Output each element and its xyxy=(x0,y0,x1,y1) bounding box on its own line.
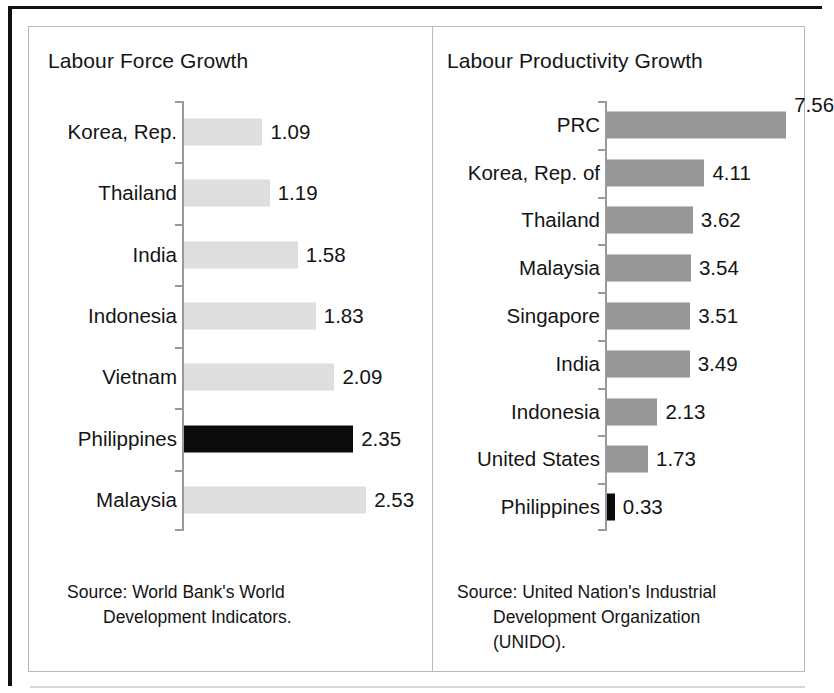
figure-left-rule xyxy=(8,6,12,686)
bar-category-label: Malaysia xyxy=(433,256,600,280)
bar-value-label: 1.83 xyxy=(324,304,364,328)
chart-row: Vietnam2.09 xyxy=(29,347,432,408)
bar xyxy=(607,207,693,234)
chart-row: Korea, Rep.1.09 xyxy=(29,101,432,162)
axis-tick xyxy=(598,292,606,294)
bar-value-label: 7.56 xyxy=(794,93,834,117)
axis-tick xyxy=(175,162,183,164)
chart-row: Indonesia2.13 xyxy=(433,388,804,436)
source-note-left: Source: World Bank's World Development I… xyxy=(67,555,292,655)
axis-tick xyxy=(175,347,183,349)
bar xyxy=(607,302,690,329)
panel-title-right: Labour Productivity Growth xyxy=(447,49,703,73)
chart-row: Singapore3.51 xyxy=(433,292,804,340)
bar-value-label: 3.54 xyxy=(699,256,739,280)
chart-row: Philippines0.33 xyxy=(433,483,804,531)
bar-category-label: India xyxy=(29,243,177,267)
bar xyxy=(607,159,704,186)
bar-category-label: Singapore xyxy=(433,304,600,328)
bar xyxy=(607,255,691,282)
bar xyxy=(607,111,786,138)
panel-labour-force-growth: Labour Force Growth Korea, Rep.1.09Thail… xyxy=(29,27,433,671)
bar-category-label: Indonesia xyxy=(433,400,600,424)
bar-category-label: Philippines xyxy=(433,495,600,519)
bar xyxy=(607,398,657,425)
bar-value-label: 2.13 xyxy=(665,400,705,424)
bar-value-label: 1.73 xyxy=(656,447,696,471)
bar-category-label: Korea, Rep. of xyxy=(433,161,600,185)
chart-row: PRC7.56 xyxy=(433,101,804,149)
bar xyxy=(607,446,648,473)
source-note-left-line1: Source: World Bank's World xyxy=(67,582,285,602)
bar-category-label: Korea, Rep. xyxy=(29,120,177,144)
panel-labour-productivity-growth: Labour Productivity Growth PRC7.56Korea,… xyxy=(433,27,804,671)
figure-top-rule xyxy=(10,6,822,9)
bar xyxy=(184,118,262,145)
bar-category-label: Indonesia xyxy=(29,304,177,328)
chart-row: India1.58 xyxy=(29,224,432,285)
bar-value-label: 3.49 xyxy=(698,352,738,376)
bar-category-label: Philippines xyxy=(29,427,177,451)
bar-value-label: 2.35 xyxy=(361,427,401,451)
bar-category-label: PRC xyxy=(433,113,600,137)
axis-tick xyxy=(598,483,606,485)
source-note-right: Source: United Nation's Industrial Devel… xyxy=(457,555,716,680)
figure-panels: Labour Force Growth Korea, Rep.1.09Thail… xyxy=(28,26,805,672)
bar-category-label: United States xyxy=(433,447,600,471)
bar xyxy=(184,302,316,329)
source-note-right-line1: Source: United Nation's Industrial xyxy=(457,582,716,602)
chart-left: Korea, Rep.1.09Thailand1.19India1.58Indo… xyxy=(29,101,432,531)
bar-value-label: 4.11 xyxy=(712,161,750,185)
bar-value-label: 2.53 xyxy=(374,488,414,512)
chart-row: United States1.73 xyxy=(433,435,804,483)
bar-value-label: 3.51 xyxy=(698,304,738,328)
chart-row: Malaysia2.53 xyxy=(29,470,432,531)
bar-highlighted xyxy=(607,494,615,521)
bar xyxy=(184,487,366,514)
chart-row: Indonesia1.83 xyxy=(29,285,432,346)
axis-tick xyxy=(175,224,183,226)
bar xyxy=(184,241,298,268)
bar-category-label: Thailand xyxy=(433,208,600,232)
axis-tick xyxy=(598,149,606,151)
axis-tick xyxy=(175,470,183,472)
source-note-right-line2: Development Organization (UNIDO). xyxy=(457,605,716,655)
bar-category-label: Thailand xyxy=(29,181,177,205)
chart-row: Thailand1.19 xyxy=(29,162,432,223)
bar-highlighted xyxy=(184,425,353,452)
axis-tick xyxy=(598,244,606,246)
axis-tick xyxy=(598,435,606,437)
source-note-left-line2: Development Indicators. xyxy=(67,605,292,630)
bar xyxy=(184,364,334,391)
axis-tick xyxy=(598,388,606,390)
chart-row: Malaysia3.54 xyxy=(433,244,804,292)
chart-right: PRC7.56Korea, Rep. of4.11Thailand3.62Mal… xyxy=(433,101,804,531)
bar-value-label: 3.62 xyxy=(701,208,741,232)
panel-title-left: Labour Force Growth xyxy=(48,49,248,73)
bar xyxy=(184,180,270,207)
bar-category-label: Vietnam xyxy=(29,365,177,389)
bar-value-label: 1.58 xyxy=(306,243,346,267)
bar-category-label: Malaysia xyxy=(29,488,177,512)
bar-value-label: 2.09 xyxy=(342,365,382,389)
bar-value-label: 0.33 xyxy=(623,495,663,519)
chart-row: Thailand3.62 xyxy=(433,197,804,245)
bar xyxy=(607,350,690,377)
chart-row: Korea, Rep. of4.11 xyxy=(433,149,804,197)
bar-value-label: 1.09 xyxy=(270,120,310,144)
scan-edge xyxy=(30,686,805,688)
axis-tick xyxy=(175,285,183,287)
axis-tick xyxy=(598,197,606,199)
bar-value-label: 1.19 xyxy=(278,181,318,205)
axis-tick xyxy=(175,408,183,410)
axis-tick xyxy=(598,340,606,342)
bar-category-label: India xyxy=(433,352,600,376)
chart-row: Philippines2.35 xyxy=(29,408,432,469)
chart-row: India3.49 xyxy=(433,340,804,388)
